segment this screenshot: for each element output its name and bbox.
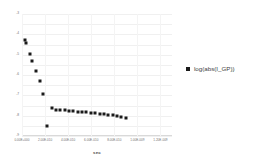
- data-point: [38, 80, 41, 83]
- y-tick-label: -8: [16, 114, 19, 117]
- y-tick-label: -3: [16, 12, 19, 15]
- data-point: [107, 113, 110, 116]
- data-point: [124, 116, 127, 119]
- data-point: [111, 114, 114, 117]
- data-point: [120, 115, 123, 118]
- gridline: [22, 14, 23, 136]
- data-point: [42, 93, 45, 96]
- chart-figure: -3-4-5-6-7-8-9 0.00E+0002.00E-0104.00E-0…: [0, 0, 254, 166]
- data-point: [94, 112, 97, 115]
- x-tick-label: 6.00E-010: [84, 139, 98, 142]
- x-tick-label: 8.00E-010: [107, 139, 121, 142]
- legend: log(abs(I_GP)): [186, 66, 235, 72]
- legend-marker-icon: [186, 67, 190, 71]
- data-point: [63, 109, 66, 112]
- y-tick-label: -6: [16, 73, 19, 76]
- x-tick-label: 2.00E-010: [38, 139, 52, 142]
- legend-label: log(abs(I_GP)): [194, 66, 235, 72]
- data-point: [25, 41, 28, 44]
- y-tick-label: -5: [16, 53, 19, 56]
- x-axis-title: sec: [22, 150, 172, 155]
- data-point: [81, 111, 84, 114]
- data-point: [28, 53, 31, 56]
- data-point: [46, 125, 49, 128]
- x-tick-label: 1.20E-009: [153, 139, 167, 142]
- data-point: [72, 110, 75, 113]
- data-point: [50, 106, 53, 109]
- data-point: [89, 111, 92, 114]
- gridline: [137, 14, 138, 136]
- gridline: [160, 14, 161, 136]
- y-tick-label: -4: [16, 33, 19, 36]
- gridline: [91, 14, 92, 136]
- data-point: [68, 109, 71, 112]
- gridline: [68, 14, 69, 136]
- data-point: [116, 115, 119, 118]
- gridline: [114, 14, 115, 136]
- data-point: [59, 108, 62, 111]
- data-point: [85, 111, 88, 114]
- data-point: [30, 59, 33, 62]
- data-point: [76, 110, 79, 113]
- gridline: [45, 14, 46, 136]
- y-tick-label: -7: [16, 94, 19, 97]
- x-tick-label: 1.00E-009: [130, 139, 144, 142]
- plot-area: -3-4-5-6-7-8-9 0.00E+0002.00E-0104.00E-0…: [22, 14, 172, 136]
- data-point: [34, 69, 37, 72]
- x-tick-label: 0.00E+000: [14, 139, 29, 142]
- x-tick-label: 4.00E-010: [61, 139, 75, 142]
- data-point: [98, 112, 101, 115]
- data-point: [102, 113, 105, 116]
- data-point: [55, 108, 58, 111]
- gridline: [22, 136, 172, 137]
